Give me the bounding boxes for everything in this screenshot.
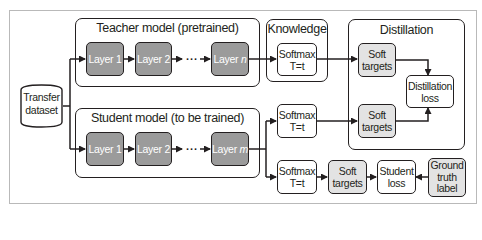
student-ellipsis: ... [186,140,198,152]
student-softmax-distill: Softmax T=t [277,104,317,138]
ground-truth-label: Ground truth label [428,158,466,197]
student-layer-m: Layer m [211,132,249,166]
teacher-layer-n: Layer n [211,42,249,76]
student-soft-targets-hard: Soft targets [328,160,367,194]
student-loss: Student loss [377,160,416,194]
teacher-soft-targets: Soft targets [358,43,396,77]
teacher-layer-1: Layer 1 [86,42,124,76]
teacher-ellipsis: ... [186,50,198,62]
student-softmax-hard: Softmax T=t [277,160,317,194]
student-layer-1: Layer 1 [86,132,124,166]
student-layer-2: Layer 2 [135,132,172,166]
teacher-softmax: Softmax T=t [277,43,317,76]
student-soft-targets-distill: Soft targets [358,104,396,138]
distillation-loss: Distillation loss [406,75,454,108]
teacher-layer-2: Layer 2 [135,42,172,76]
